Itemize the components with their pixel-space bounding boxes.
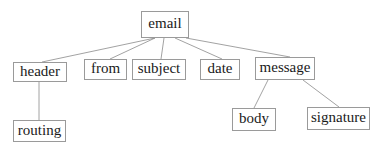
node-signature: signature <box>307 107 370 130</box>
node-label: message <box>260 60 311 75</box>
node-from: from <box>84 59 127 80</box>
node-label: date <box>208 61 233 76</box>
node-label: body <box>239 111 269 126</box>
node-label: from <box>91 61 120 76</box>
node-label: email <box>148 16 181 31</box>
node-date: date <box>200 59 240 80</box>
node-label: routing <box>18 123 61 138</box>
edge-message-body <box>254 80 268 108</box>
edge-email-message <box>186 38 290 57</box>
node-message: message <box>255 57 315 80</box>
edge-email-subject <box>161 38 164 59</box>
node-email: email <box>141 11 189 38</box>
edge-email-date <box>175 38 222 59</box>
node-header: header <box>13 62 67 82</box>
node-label: signature <box>311 110 366 125</box>
edge-message-signature <box>303 80 339 107</box>
edge-email-from <box>110 38 155 59</box>
node-routing: routing <box>13 120 66 142</box>
node-subject: subject <box>132 59 186 80</box>
tree-diagram: email header from subject date message r… <box>0 0 384 152</box>
node-label: header <box>20 64 60 79</box>
node-body: body <box>232 108 276 131</box>
node-label: subject <box>138 61 181 76</box>
